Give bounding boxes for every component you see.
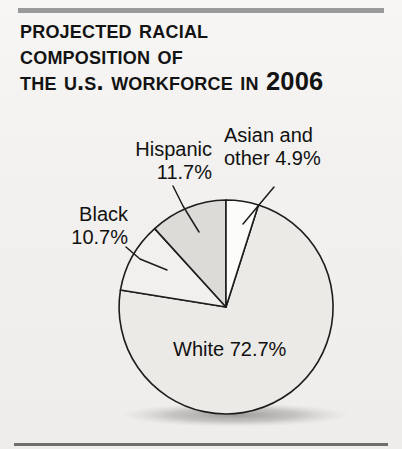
pie-label-white: White 72.7%	[173, 338, 343, 361]
pie-label-asian-and-other: Asian and other 4.9%	[224, 124, 374, 170]
pie-label-black: Black 10.7%	[16, 203, 128, 249]
chart-figure: Projected Racial Composition of The U.S.…	[0, 0, 402, 449]
pie-label-hispanic: Hispanic 11.7%	[96, 138, 212, 184]
bottom-rule	[14, 443, 388, 446]
